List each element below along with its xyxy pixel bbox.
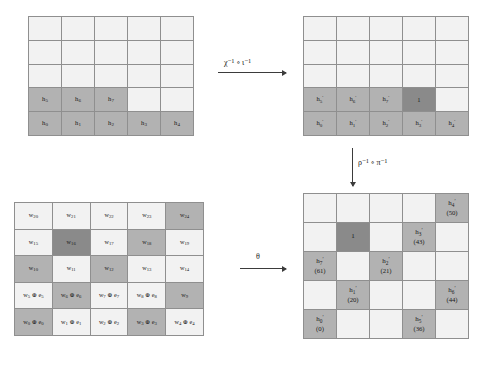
grid-cell-h4: h4′(50): [436, 194, 468, 222]
grid-cell-empty: [403, 252, 435, 280]
cell-label: h2′: [382, 256, 389, 267]
grid-cell-h7: h7′: [370, 88, 402, 111]
grid-cell-w21: w21: [53, 203, 90, 229]
cell-label: w22: [104, 211, 113, 220]
grid-cell-empty: [304, 17, 336, 40]
grid-cell-h4: h4′: [436, 112, 468, 135]
grid-cell-w10: w10: [15, 256, 52, 282]
cell-label: h3: [141, 119, 147, 129]
grid-cell-w22: w22: [91, 203, 128, 229]
cell-label: h5′: [415, 314, 422, 325]
cell-label: h6: [75, 95, 81, 105]
grid-cell-empty: [304, 65, 336, 88]
cell-label: h1′: [349, 285, 356, 296]
grid-cell-empty: [403, 194, 435, 222]
cell-label: w17: [104, 238, 113, 247]
cell-index-value: (61): [314, 267, 325, 276]
cell-index-value: (0): [316, 325, 324, 334]
grid-cell-empty: [436, 41, 468, 64]
grid-cell-empty: [337, 194, 369, 222]
grid-cell-w3: w3 ⊕ e3: [128, 309, 165, 335]
cell-label: h2′: [383, 119, 390, 129]
grid-cell-empty: [436, 252, 468, 280]
cell-label: h6′: [350, 95, 357, 105]
cell-label: w12: [104, 264, 113, 273]
cell-label: h7′: [316, 256, 323, 267]
grid-cell-h5: h5: [29, 88, 61, 111]
cell-label: h0′: [317, 119, 324, 129]
grid-cell-empty: [403, 65, 435, 88]
grid-cell-empty: [304, 223, 336, 251]
grid-cell-empty: [304, 41, 336, 64]
cell-label: 1: [417, 96, 420, 104]
cell-index-value: (43): [413, 238, 424, 247]
cell-label: w23: [142, 211, 151, 220]
cell-label: w5 ⊕ e5: [23, 291, 43, 300]
grid-cell-h2: h2: [95, 112, 127, 135]
cell-label: h7′: [383, 95, 390, 105]
grid-cell-empty: [370, 223, 402, 251]
grid-cell-h1: h1′: [337, 112, 369, 135]
arrow-top-right-to-bottom-right: [352, 148, 353, 186]
grid-cell-w13: w13: [128, 256, 165, 282]
grid-cell-empty: [436, 88, 468, 111]
grid-cell-empty: [128, 65, 160, 88]
cell-label: w15: [29, 238, 38, 247]
grid-cell-w0: w0 ⊕ e0: [15, 309, 52, 335]
grid-cell-h6: h6′(44): [436, 281, 468, 309]
grid-cell-empty: [337, 310, 369, 338]
cell-label: h3′: [415, 227, 422, 238]
grid-cell-empty: [128, 41, 160, 64]
grid-cell-empty: [128, 88, 160, 111]
grid-cell-empty: [62, 41, 94, 64]
grid-cell-h3: h3′: [403, 112, 435, 135]
grid-cell-empty: [29, 41, 61, 64]
grid-cell-w6: w6 ⊕ e6: [53, 283, 90, 309]
cell-label: w9: [181, 291, 188, 300]
grid-cell-h7: h7′(61): [304, 252, 336, 280]
arrow-label-chi-inv-iota-inv: χ⁻¹ ∘ ι⁻¹: [224, 58, 251, 67]
cell-label: w3 ⊕ e3: [137, 318, 157, 327]
cell-label: w4 ⊕ e4: [174, 318, 194, 327]
grid-cell-w24: w24: [166, 203, 203, 229]
cell-index-value: (44): [446, 296, 457, 305]
cell-label: h0′: [316, 314, 323, 325]
grid-cell-1: 1: [403, 88, 435, 111]
cell-label: w6 ⊕ e6: [61, 291, 81, 300]
cell-label: w7 ⊕ e7: [99, 291, 119, 300]
grid-cell-empty: [161, 17, 193, 40]
grid-cell-empty: [95, 41, 127, 64]
cell-label: h0: [42, 119, 48, 129]
grid-cell-h5: h5′(36): [403, 310, 435, 338]
cell-label: 1: [351, 232, 355, 241]
cell-index-value: (21): [380, 267, 391, 276]
grid-cell-h0: h0: [29, 112, 61, 135]
arrow-bottom-left-to-bottom-right: [240, 268, 286, 269]
grid-cell-w1: w1 ⊕ e1: [53, 309, 90, 335]
grid-cell-empty: [161, 65, 193, 88]
grid-cell-empty: [370, 41, 402, 64]
grid-cell-empty: [128, 17, 160, 40]
grid-cell-empty: [370, 17, 402, 40]
cell-label: w19: [180, 238, 189, 247]
grid-cell-h7: h7: [95, 88, 127, 111]
state-grid-bottom-left: w20w21w22w23w24w15w16w17w18w19w10w11w12w…: [14, 202, 204, 336]
grid-cell-h4: h4: [161, 112, 193, 135]
cell-label: w13: [142, 264, 151, 273]
grid-cell-empty: [403, 41, 435, 64]
cell-index-value: (50): [446, 209, 457, 218]
cell-label: h4: [174, 119, 180, 129]
grid-cell-empty: [370, 65, 402, 88]
grid-cell-w17: w17: [91, 230, 128, 256]
cell-label: w21: [67, 211, 76, 220]
cell-label: w16: [67, 238, 76, 247]
grid-cell-h5: h5′: [304, 88, 336, 111]
arrow-label-theta: θ: [256, 252, 260, 261]
grid-cell-empty: [436, 17, 468, 40]
grid-cell-w2: w2 ⊕ e2: [91, 309, 128, 335]
grid-cell-h0: h0′(0): [304, 310, 336, 338]
cell-label: h4′: [449, 119, 456, 129]
grid-cell-h1: h1: [62, 112, 94, 135]
grid-cell-empty: [337, 65, 369, 88]
cell-label: h1: [75, 119, 81, 129]
